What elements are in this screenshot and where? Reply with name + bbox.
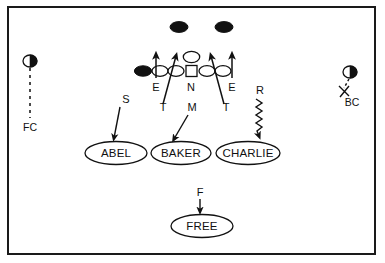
label-rover: R: [256, 84, 264, 96]
label-nose: N: [187, 81, 195, 93]
corner-bc-symbol: [343, 66, 357, 78]
label-end-left: E: [152, 81, 159, 93]
label-end-right: E: [228, 81, 235, 93]
label-boundary-corner: BC: [345, 96, 360, 108]
offense-lineman-left-guard: [152, 66, 168, 77]
label-mike: M: [187, 101, 196, 113]
offense-lineman-right-tackle: [199, 66, 215, 77]
label-strong-safety: S: [122, 93, 129, 105]
offense-wide-receiver-left: [170, 22, 188, 33]
offense-tight-end: [134, 66, 151, 76]
zone-label-abel: ABEL: [101, 147, 132, 159]
label-tackle-right: T: [223, 101, 230, 113]
offense-wide-receiver-right: [215, 22, 233, 33]
zone-label-charlie: CHARLIE: [222, 147, 273, 159]
play-diagram-root: E N E T T S M R ABEL BAKER CHARLIE F FRE…: [0, 0, 385, 263]
play-diagram-canvas: E N E T T S M R ABEL BAKER CHARLIE F FRE…: [0, 0, 385, 263]
corner-fc-symbol: [23, 55, 37, 67]
drop-arrow-m-to-baker: [174, 115, 188, 139]
offense-lineman-right-guard: [215, 66, 231, 77]
rush-arrow-tackle-right: [211, 56, 224, 104]
zigzag-arrow-r-to-charlie: [256, 99, 262, 136]
label-free-safety: F: [197, 186, 204, 198]
drop-arrow-s-to-abel: [114, 107, 120, 138]
label-tackle-left: T: [160, 101, 167, 113]
offense-center: [186, 66, 197, 77]
rush-arrow-tackle-left: [163, 56, 176, 104]
offense-quarterback: [183, 51, 199, 62]
zone-label-free: FREE: [186, 220, 218, 232]
label-field-corner: FC: [23, 121, 37, 133]
zone-label-baker: BAKER: [161, 147, 201, 159]
